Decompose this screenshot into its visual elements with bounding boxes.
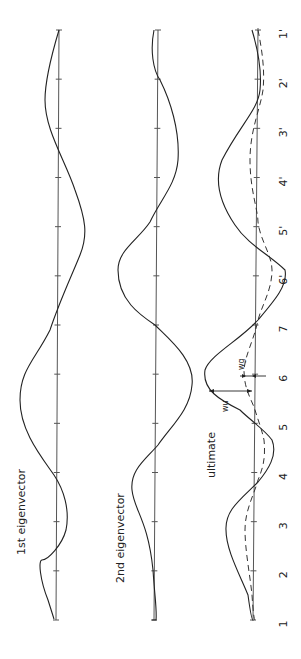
title-first-eigenvector: 1st eigenvector — [15, 469, 28, 555]
node-label: 6 — [277, 375, 290, 382]
panel-ultimate: ultimate wu wg — [205, 28, 286, 621]
wg-annotation: wg — [237, 358, 266, 378]
curve-first-eigenvector — [20, 30, 85, 619]
node-label: 3' — [277, 127, 290, 137]
panel-second-eigenvector: 2nd eigenvector — [114, 30, 192, 620]
node-label: 7 — [277, 326, 290, 333]
title-ultimate: ultimate — [205, 432, 218, 478]
wu-annotation: wu — [209, 389, 252, 412]
eigenvector-diagram: 1st eigenvector 2nd eigenvector ultimate… — [0, 0, 301, 659]
wu-label: wu — [221, 400, 230, 412]
node-label: 6' — [277, 275, 290, 285]
node-labels: 12345676'5'4'3'2'1' — [277, 29, 290, 628]
panel-first-eigenvector: 1st eigenvector — [15, 30, 85, 620]
node-label: 3 — [277, 522, 290, 529]
ticks-first — [53, 30, 62, 620]
node-label: 4' — [277, 176, 290, 186]
node-label: 2 — [277, 571, 290, 578]
node-label: 5 — [277, 424, 290, 431]
wu-arrowhead-right — [247, 389, 252, 393]
ticks-ultimate — [250, 30, 261, 620]
ticks-second — [151, 30, 161, 620]
wg-label: wg — [237, 358, 246, 370]
curve-second-eigenvector — [118, 30, 192, 620]
node-label: 4 — [277, 473, 290, 480]
node-label: 2' — [277, 78, 290, 88]
title-second-eigenvector: 2nd eigenvector — [114, 493, 127, 583]
node-label: 1' — [277, 29, 290, 39]
curve-ultimate-solid — [205, 30, 286, 620]
node-label: 5' — [277, 226, 290, 236]
node-label: 1 — [277, 621, 290, 628]
